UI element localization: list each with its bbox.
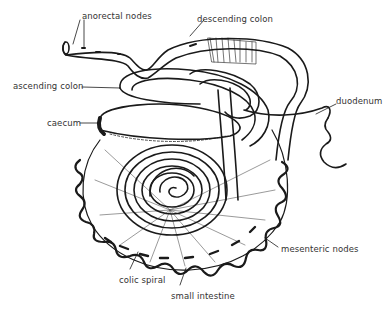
label-mesenteric-nodes: mesenteric nodes [281, 244, 359, 254]
mesentery-fan [75, 130, 287, 276]
label-small-intestine: small intestine [171, 291, 235, 301]
colic-spiral-drawing [117, 145, 227, 235]
mesentery-patch [208, 38, 256, 64]
descending-colon-drawing [63, 39, 308, 161]
label-duodenum: duodenum [336, 96, 382, 106]
label-descending-colon: descending colon [197, 14, 273, 24]
duodenum-drawing [190, 70, 346, 200]
anatomy-diagram: anorectal nodes descending colon ascendi… [0, 0, 392, 313]
label-colic-spiral: colic spiral [119, 275, 165, 285]
label-anorectal-nodes: anorectal nodes [82, 11, 152, 21]
intestine-drawing [0, 0, 392, 313]
label-caecum: caecum [47, 118, 81, 128]
label-ascending-colon: ascending colon [13, 81, 84, 91]
